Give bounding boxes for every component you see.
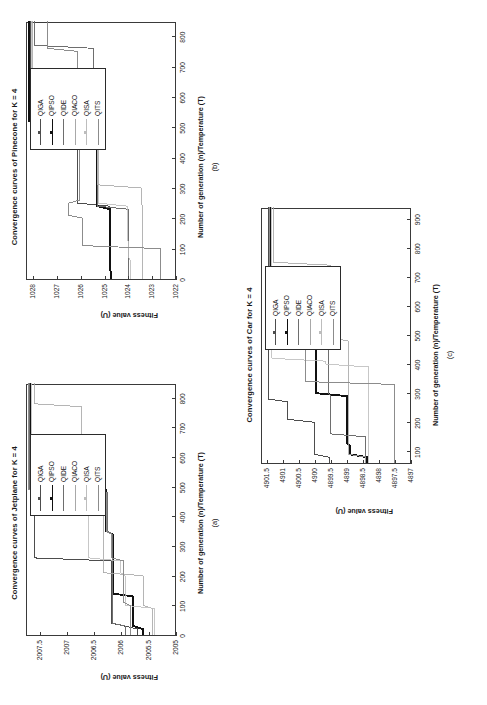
y-tick-label: 4898 xyxy=(375,468,382,510)
x-tick-mark xyxy=(172,487,176,488)
x-tick-mark xyxy=(407,393,411,394)
y-tick-label: 1028 xyxy=(29,284,36,326)
legend-line-swatch xyxy=(310,319,311,345)
panel-a-title: Convergence curves of Jetplane for K = 4 xyxy=(10,358,19,688)
y-tick-label: 2005.5 xyxy=(145,640,152,682)
legend-label: QIACO xyxy=(70,95,80,116)
x-tick-label: 700 xyxy=(179,53,186,83)
x-tick-mark xyxy=(172,427,176,428)
legend-item-qiaco: QIACO xyxy=(70,435,81,515)
panel-pinecone: Convergence curves of Pinecone for K = 4… xyxy=(8,8,230,326)
legend-line-swatch xyxy=(98,119,99,145)
x-tick-label: 600 xyxy=(179,83,186,113)
x-tick-mark xyxy=(172,36,176,37)
y-tick-label: 4901 xyxy=(279,468,286,510)
panel-a-legend: QIGAQIPSOQIDEQIACOQISAQITS xyxy=(30,434,106,516)
x-tick-label: 700 xyxy=(414,263,421,293)
legend-line-swatch xyxy=(298,319,299,345)
y-tick-label: 4898.5 xyxy=(359,468,366,510)
y-tick-mark xyxy=(363,460,364,464)
legend-line-swatch xyxy=(63,485,64,511)
y-tick-mark xyxy=(57,276,58,280)
legend-item-qits: QITS xyxy=(93,69,104,149)
y-tick-mark xyxy=(40,632,41,636)
legend-item-qipso: QIPSO xyxy=(47,69,58,149)
y-tick-label: 2007.5 xyxy=(36,640,43,682)
legend-line-swatch xyxy=(98,485,99,511)
y-tick-mark xyxy=(331,460,332,464)
figure-page: Convergence curves of Pinecone for K = 4… xyxy=(0,0,487,705)
legend-marker-dot xyxy=(319,331,322,334)
legend-label: QIACO xyxy=(305,295,315,316)
y-tick-mark xyxy=(128,276,129,280)
panel-c-title: Convergence curves of Car for K = 4 xyxy=(245,190,254,520)
legend-item-qits: QITS xyxy=(93,435,104,515)
panel-a-caption: (a) xyxy=(210,358,219,688)
legend-line-swatch xyxy=(63,119,64,145)
y-tick-label: 1027 xyxy=(53,284,60,326)
y-tick-label: 4899.5 xyxy=(327,468,334,510)
x-tick-mark xyxy=(407,306,411,307)
x-tick-mark xyxy=(172,249,176,250)
legend-item-qits: QITS xyxy=(328,267,339,349)
y-tick-label: 1025 xyxy=(101,284,108,326)
legend-marker-dot xyxy=(285,331,288,334)
y-tick-mark xyxy=(379,460,380,464)
legend-label: QISA xyxy=(317,300,327,316)
x-tick-mark xyxy=(172,127,176,128)
x-tick-mark xyxy=(407,335,411,336)
y-tick-mark xyxy=(121,632,122,636)
legend-marker-dot xyxy=(38,497,41,500)
legend-line-swatch xyxy=(75,485,76,511)
panel-b-curves xyxy=(27,21,177,279)
legend-line-swatch xyxy=(75,119,76,145)
legend-item-qipso: QIPSO xyxy=(282,267,293,349)
legend-item-qide: QIDE xyxy=(58,69,69,149)
legend-marker-dot xyxy=(273,331,276,334)
panel-c-legend: QIGAQIPSOQIDEQIACOQISAQITS xyxy=(265,266,341,350)
y-tick-label: 1023 xyxy=(148,284,155,326)
panel-c-caption: (c) xyxy=(445,190,454,520)
legend-marker-dot xyxy=(50,497,53,500)
x-tick-label: 300 xyxy=(179,532,186,562)
legend-label: QITS xyxy=(93,101,103,116)
legend-marker-dot xyxy=(84,497,87,500)
legend-item-qiaco: QIACO xyxy=(70,69,81,149)
legend-label: QITS xyxy=(93,467,103,482)
legend-item-qipso: QIPSO xyxy=(47,435,58,515)
x-tick-label: 100 xyxy=(414,437,421,467)
legend-label: QIGA xyxy=(271,300,281,317)
x-tick-label: 100 xyxy=(179,235,186,265)
y-tick-label: 2005 xyxy=(172,640,179,682)
legend-label: QIGA xyxy=(36,466,46,483)
panel-jetplane: Convergence curves of Jetplane for K = 4… xyxy=(8,358,230,688)
y-tick-label: 4897.5 xyxy=(391,468,398,510)
legend-label: QISA xyxy=(82,466,92,482)
x-tick-label: 400 xyxy=(414,350,421,380)
x-tick-label: 400 xyxy=(179,144,186,174)
y-tick-mark xyxy=(347,460,348,464)
x-tick-label: 600 xyxy=(179,443,186,473)
x-tick-label: 900 xyxy=(414,205,421,235)
x-tick-mark xyxy=(407,451,411,452)
panel-c-xlabel: Number of generation (n)/Temperature (T) xyxy=(431,190,440,520)
legend-line-swatch xyxy=(333,319,334,345)
y-tick-label: 4899 xyxy=(343,468,350,510)
panel-car: Convergence curves of Car for K = 4 Fitn… xyxy=(243,190,479,520)
panel-a-xlabel: Number of generation (n)/Temperature (T) xyxy=(196,358,205,688)
x-tick-mark xyxy=(172,546,176,547)
y-tick-label: 1026 xyxy=(77,284,84,326)
y-tick-mark xyxy=(411,460,412,464)
y-tick-mark xyxy=(81,276,82,280)
x-tick-label: 100 xyxy=(179,591,186,621)
legend-item-qisa: QISA xyxy=(81,69,92,149)
y-tick-mark xyxy=(283,460,284,464)
x-tick-label: 800 xyxy=(179,384,186,414)
legend-item-qisa: QISA xyxy=(316,267,327,349)
x-tick-label: 700 xyxy=(179,413,186,443)
legend-label: QIDE xyxy=(59,100,69,116)
y-tick-mark xyxy=(94,632,95,636)
series-line xyxy=(47,21,160,279)
legend-item-qiga: QIGA xyxy=(35,69,46,149)
x-tick-mark xyxy=(172,158,176,159)
